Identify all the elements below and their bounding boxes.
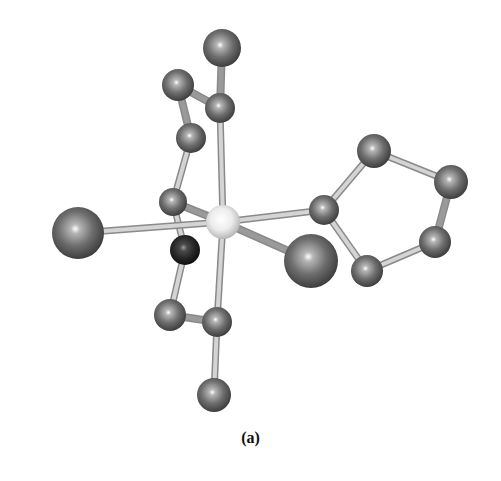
atom-dark	[170, 235, 200, 265]
atom-ring-attach	[309, 195, 339, 225]
atom-mid-left	[159, 188, 187, 216]
atom-ring-right-top	[434, 165, 468, 199]
atom-ring-bot-left	[351, 255, 383, 287]
atom-upper-left	[162, 69, 194, 101]
molecular-structure-diagram	[0, 0, 501, 481]
atom-ring-top	[357, 134, 391, 168]
atom-bottom	[197, 378, 231, 412]
atom-ring-right-bot	[419, 226, 451, 258]
figure-caption: (a)	[0, 429, 501, 447]
atom-lower-left	[154, 299, 186, 331]
atom-top	[203, 29, 241, 67]
atom-upper-center	[205, 93, 235, 123]
atom-upper-mid-left	[176, 123, 206, 153]
atom-right-big	[284, 234, 338, 288]
atom-lower-center	[202, 307, 232, 337]
atom-far-left-big	[52, 207, 104, 259]
atom-center	[206, 205, 240, 239]
bond-layer	[78, 48, 451, 395]
